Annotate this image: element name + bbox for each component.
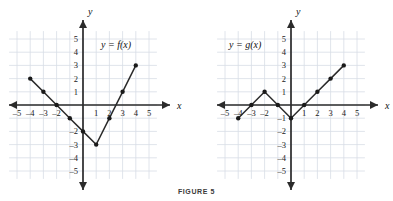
x-tick-label: –2 [51,108,61,118]
data-point [289,116,293,120]
x-axis-label-g: x [384,100,390,111]
x-tick-label: 1 [302,108,306,118]
data-point [120,90,124,94]
x-tick-label: –5 [220,108,230,118]
graph-svg-g: –5–4–3–212345 –5–4–3–2–112345 x y y = g(… [196,0,393,201]
data-point [134,63,138,67]
x-tick-label: –3 [38,108,48,118]
y-tick-label: –3 [277,140,287,150]
x-tick-label: 4 [342,108,347,118]
graph-panel-f: –5–4–3–212345 –5–4–3–212345 x y y = f(x) [0,0,196,201]
y-tick-label: 3 [74,60,78,70]
graph-panel-g: –5–4–3–212345 –5–4–3–2–112345 x y y = g(… [196,0,392,201]
data-point [94,142,98,146]
data-point [54,103,58,107]
y-tick-label: –5 [69,166,79,176]
y-tick-label: 5 [282,34,286,44]
x-tick-label: –5 [12,108,22,118]
x-axis-label-f: x [176,100,182,111]
y-tick-label: 2 [282,74,286,84]
y-tick-label: –2 [277,126,287,136]
data-point [315,90,319,94]
y-tick-label: 5 [74,34,78,44]
data-point [107,116,111,120]
x-tick-label: 3 [120,108,124,118]
data-point [249,103,253,107]
data-point [81,129,85,133]
data-point [236,116,240,120]
x-tick-label: –2 [259,108,269,118]
data-point [262,90,266,94]
y-tick-label: –4 [277,153,287,163]
function-label-g: y = g(x) [228,39,262,51]
data-point [41,90,45,94]
x-tick-label: 5 [355,108,359,118]
y-tick-label: –2 [69,126,79,136]
y-tick-label: 1 [74,87,78,97]
graph-svg-f: –5–4–3–212345 –5–4–3–212345 x y y = f(x) [0,0,196,201]
x-tick-label: 2 [315,108,319,118]
axes-f [9,20,170,190]
data-point [276,103,280,107]
figure-caption: FIGURE 5 [0,188,393,195]
y-tick-label: 3 [282,60,286,70]
y-tick-label: –3 [69,140,79,150]
function-label-f: y = f(x) [100,39,132,51]
data-point [342,63,346,67]
y-tick-label: 2 [74,74,78,84]
y-tick-label: –1 [277,113,287,123]
x-tick-label: 1 [94,108,98,118]
x-tick-label: –4 [25,108,35,118]
y-axis-label-f: y [87,6,93,17]
x-tick-label: 4 [134,108,139,118]
tick-labels-x-f: –5–4–3–212345 [12,108,151,118]
x-tick-label: 5 [147,108,151,118]
data-point [68,116,72,120]
data-point [328,76,332,80]
y-axis-label-g: y [295,6,301,17]
y-tick-label: –5 [277,166,287,176]
y-tick-label: –4 [69,153,79,163]
figure-container: –5–4–3–212345 –5–4–3–212345 x y y = f(x)… [0,0,393,201]
data-point [302,103,306,107]
y-tick-label: 1 [282,87,286,97]
data-point [28,76,32,80]
x-tick-label: 3 [328,108,332,118]
